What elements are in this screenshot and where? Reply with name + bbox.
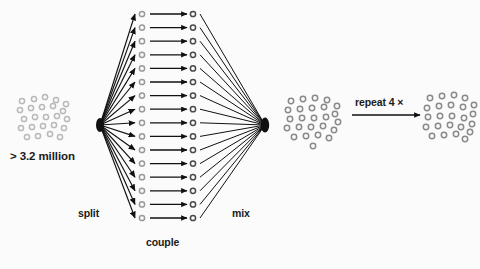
bead (335, 119, 340, 124)
bead (460, 104, 465, 109)
bead (190, 107, 195, 112)
bead (449, 113, 454, 118)
bead (139, 175, 144, 180)
bead (458, 124, 463, 129)
bead (18, 125, 23, 130)
label-couple: couple (146, 236, 179, 248)
bead (139, 202, 144, 207)
bead (441, 132, 446, 137)
bead (32, 114, 37, 119)
bead (139, 66, 144, 71)
bead (323, 114, 328, 119)
bead (139, 147, 144, 152)
bead (139, 93, 144, 98)
bead (61, 125, 66, 130)
bead (332, 111, 337, 116)
bead (470, 111, 475, 116)
bead (285, 107, 290, 112)
bead (139, 215, 144, 220)
starting-bead-pool (17, 94, 69, 139)
bead (57, 134, 62, 139)
bead (19, 98, 24, 103)
mix-line (200, 55, 265, 125)
bead (28, 105, 33, 110)
bead (451, 92, 456, 97)
bead (190, 93, 195, 98)
mix-convergence-node (261, 118, 269, 133)
bead (471, 102, 476, 107)
bead (190, 79, 195, 84)
bead (448, 102, 453, 107)
bead (190, 134, 195, 139)
bead (21, 116, 26, 121)
bead (63, 101, 68, 106)
bead (287, 116, 292, 121)
bead (439, 93, 444, 98)
split-arrow (100, 82, 135, 125)
label-split: split (78, 207, 99, 219)
bead (190, 188, 195, 193)
bead (17, 107, 22, 112)
bead (47, 131, 52, 136)
bead (469, 121, 474, 126)
mix-line (200, 41, 265, 125)
bead (139, 134, 144, 139)
bead (334, 103, 339, 108)
bead (39, 104, 44, 109)
bead (54, 113, 59, 118)
bead (429, 133, 434, 138)
bead (139, 79, 144, 84)
bead (51, 122, 56, 127)
split-arrow (100, 125, 135, 177)
bead (139, 39, 144, 44)
bead (435, 123, 440, 128)
mix-line (200, 14, 265, 125)
bead (326, 135, 331, 140)
couple-arrows (150, 14, 187, 218)
bead (139, 11, 144, 16)
split-arrow (100, 55, 135, 125)
bead (288, 98, 293, 103)
mix-line (200, 82, 265, 125)
bead (53, 97, 58, 102)
bead (190, 39, 195, 44)
split-origin-node (96, 118, 104, 132)
resin-columns (139, 11, 195, 220)
bead (461, 115, 466, 120)
bead (190, 11, 195, 16)
bead (139, 120, 144, 125)
bead (300, 96, 305, 101)
bead (190, 175, 195, 180)
bead (315, 132, 320, 137)
bead (43, 114, 48, 119)
bead (310, 143, 315, 148)
bead (60, 108, 65, 113)
bead (331, 127, 336, 132)
bead (190, 120, 195, 125)
label-millions: > 3.2 million (10, 150, 75, 162)
bead (139, 107, 144, 112)
bead (312, 95, 317, 100)
bead (436, 103, 441, 108)
bead (303, 133, 308, 138)
bead (296, 124, 301, 129)
bead (190, 161, 195, 166)
bead (309, 105, 314, 110)
split-arrow (100, 14, 135, 125)
bead (447, 122, 452, 127)
bead (35, 133, 40, 138)
bead (190, 147, 195, 152)
bead (31, 96, 36, 101)
bead (190, 25, 195, 30)
bead (427, 95, 432, 100)
bead (462, 95, 467, 100)
mix-line (200, 125, 265, 218)
split-arrow (100, 41, 135, 125)
diagram-svg (0, 0, 480, 269)
bead (291, 134, 296, 139)
bead (299, 115, 304, 120)
bead (190, 52, 195, 57)
bead (462, 136, 467, 141)
bead (190, 202, 195, 207)
bead (467, 129, 472, 134)
